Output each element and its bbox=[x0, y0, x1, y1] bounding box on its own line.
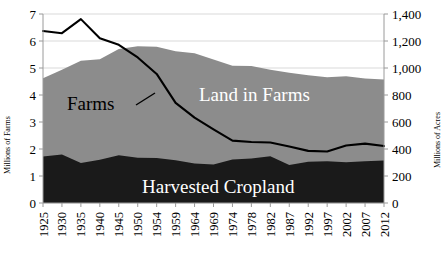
y-axis-right-title: Millions of Acres bbox=[433, 112, 442, 168]
x-tick-label: 1935 bbox=[74, 212, 88, 237]
y-tick-label: 0 bbox=[30, 196, 37, 211]
y2-tick-label: 800 bbox=[392, 88, 412, 103]
harvested-cropland-series-label: Harvested Cropland bbox=[142, 176, 295, 197]
x-tick-label: 1950 bbox=[131, 212, 145, 237]
x-tick-label: 1992 bbox=[302, 212, 316, 237]
x-tick-label: 2012 bbox=[378, 212, 392, 237]
x-tick-label: 1945 bbox=[112, 212, 126, 237]
x-tick-label: 1959 bbox=[169, 212, 183, 237]
x-tick-label: 1964 bbox=[188, 211, 202, 237]
x-tick-label: 1969 bbox=[207, 212, 221, 237]
y-tick-label: 7 bbox=[30, 7, 37, 22]
y2-tick-label: 200 bbox=[392, 169, 412, 184]
x-tick-label: 1925 bbox=[37, 212, 51, 237]
x-tick-label: 1940 bbox=[93, 212, 107, 237]
land-in-farms-series-label: Land in Farms bbox=[199, 84, 310, 105]
y-tick-label: 5 bbox=[30, 61, 37, 76]
y-tick-label: 4 bbox=[30, 88, 37, 103]
y2-tick-label: 1,000 bbox=[392, 61, 421, 76]
y2-tick-label: 0 bbox=[392, 196, 399, 211]
x-tick-label: 1978 bbox=[245, 212, 259, 237]
y-tick-label: 1 bbox=[30, 169, 37, 184]
y-tick-label: 3 bbox=[30, 115, 37, 130]
x-tick-label: 2007 bbox=[359, 212, 373, 237]
x-tick-label: 1982 bbox=[264, 212, 278, 237]
x-tick-label: 1974 bbox=[226, 211, 240, 237]
y-axis-left-title: Millions of Farms bbox=[3, 116, 12, 174]
farms-land-chart: 01234567 02004006008001,0001,2001,400 19… bbox=[0, 0, 448, 263]
x-tick-label: 1987 bbox=[283, 212, 297, 237]
x-tick-label: 1997 bbox=[321, 212, 335, 237]
y-tick-label: 6 bbox=[30, 34, 37, 49]
x-tick-label: 1954 bbox=[150, 211, 164, 237]
farms-series-label: Farms bbox=[67, 93, 115, 114]
chart-container: 01234567 02004006008001,0001,2001,400 19… bbox=[0, 0, 448, 263]
y2-tick-label: 400 bbox=[392, 142, 412, 157]
y2-tick-label: 1,400 bbox=[392, 7, 421, 22]
y2-tick-label: 600 bbox=[392, 115, 412, 130]
x-tick-label: 2002 bbox=[340, 212, 354, 237]
x-tick-label: 1930 bbox=[55, 212, 69, 237]
y2-tick-label: 1,200 bbox=[392, 34, 421, 49]
y-tick-label: 2 bbox=[30, 142, 37, 157]
